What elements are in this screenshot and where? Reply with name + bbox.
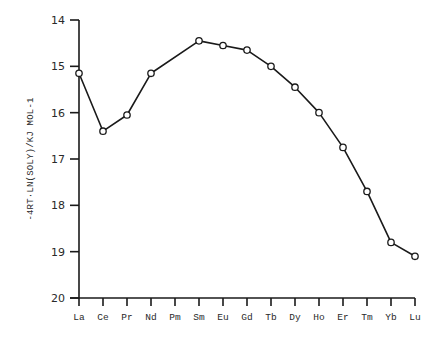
x-tick-label: Gd <box>241 312 252 323</box>
x-tick-label: Yb <box>385 312 397 323</box>
x-tick-label: Pr <box>121 312 132 323</box>
x-tick-label: Ho <box>313 312 325 323</box>
data-point-marker <box>148 70 154 76</box>
x-tick-label: Tm <box>361 312 373 323</box>
data-point-marker <box>388 239 394 245</box>
x-tick-label: Pm <box>169 312 181 323</box>
x-tick-label: Tb <box>265 312 277 323</box>
data-series <box>76 38 418 260</box>
data-point-marker <box>268 63 274 69</box>
y-axis-title: -4RT·LN(SOLY)/KJ MOL-1 <box>26 97 36 220</box>
x-tick-label: Sm <box>193 312 205 323</box>
y-tick-label: 16 <box>51 107 65 120</box>
x-tick-label: Ce <box>97 312 109 323</box>
data-point-marker <box>76 70 82 76</box>
data-point-marker <box>196 38 202 44</box>
data-point-marker <box>292 84 298 90</box>
data-point-marker <box>124 112 130 118</box>
y-tick-label: 15 <box>51 60 65 73</box>
data-point-marker <box>220 42 226 48</box>
x-tick-label: Dy <box>289 312 301 323</box>
series-line <box>79 41 415 256</box>
data-point-marker <box>316 109 322 115</box>
data-point-marker <box>244 47 250 53</box>
x-tick-label: Er <box>337 312 348 323</box>
x-tick-label: La <box>73 312 85 323</box>
y-tick-label: 20 <box>51 292 65 305</box>
data-point-marker <box>100 128 106 134</box>
data-point-marker <box>340 144 346 150</box>
y-axis: 14151617181920 <box>51 14 79 305</box>
line-chart: 14151617181920 LaCePrNdPmSmEuGdTbDyHoErT… <box>0 0 440 340</box>
data-point-marker <box>412 253 418 259</box>
x-axis: LaCePrNdPmSmEuGdTbDyHoErTmYbLu <box>70 298 421 323</box>
x-tick-label: Nd <box>145 312 156 323</box>
y-tick-label: 19 <box>51 246 65 259</box>
x-tick-label: Eu <box>217 312 228 323</box>
data-point-marker <box>364 188 370 194</box>
y-tick-label: 18 <box>51 199 65 212</box>
y-tick-label: 17 <box>51 153 65 166</box>
x-tick-label: Lu <box>409 312 420 323</box>
y-tick-label: 14 <box>51 14 65 27</box>
